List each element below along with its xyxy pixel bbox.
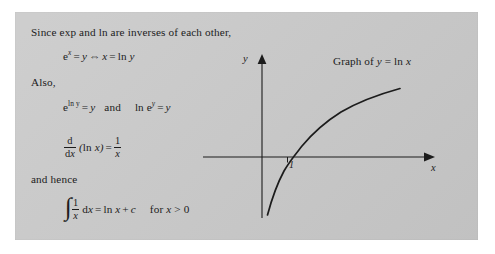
- and-hence-label: and hence: [31, 173, 77, 185]
- eq2-conjunction: and: [104, 101, 121, 113]
- graph-caption: Graph of y = ln x: [333, 55, 411, 67]
- eq2-right-rhs: y: [166, 101, 171, 113]
- derivative-operator-fraction: d dx: [64, 136, 76, 161]
- integral-plus: +: [120, 203, 130, 215]
- y-axis-arrowhead: [258, 54, 267, 64]
- graph-caption-lhs: y: [377, 55, 382, 67]
- one-over-x-numerator: 1: [114, 136, 121, 147]
- derivative-numerator: d: [64, 136, 76, 147]
- integral-sign: ∫: [65, 193, 72, 220]
- graph-caption-equals: =: [385, 55, 391, 67]
- integral-equals: =: [93, 203, 103, 215]
- eq1-equals-2: =: [107, 50, 117, 62]
- eq2-right-ln: ln: [135, 101, 144, 113]
- integrand-denominator: x: [72, 211, 79, 222]
- one-over-x-denominator: x: [114, 149, 121, 160]
- eq1-ln-argument: y: [130, 50, 135, 62]
- equation-inverse-identities: eln y=yandln ey=y: [63, 101, 171, 113]
- eq2-right-equals: =: [155, 101, 165, 113]
- graph-caption-fn: ln: [394, 55, 403, 67]
- derivative-operand: (ln x): [79, 141, 104, 153]
- derivative-denominator: dx: [64, 149, 76, 160]
- one-over-x-fraction: 1 x: [114, 136, 121, 161]
- y-axis-label: y: [243, 53, 248, 64]
- eq2-left-equals: =: [80, 101, 90, 113]
- intro-sentence: Since exp and ln are inverses of each ot…: [31, 26, 231, 38]
- eq1-ln: ln: [118, 50, 127, 62]
- equation-derivative-of-ln: d dx (ln x)= 1 x: [64, 136, 121, 161]
- equation-integral-of-one-over-x: ∫ 1 x dx=ln x+cfor x > 0: [65, 198, 190, 223]
- x-intercept-tick-label: 1: [289, 159, 294, 170]
- equation-exp-ln-equivalence: ex=y⇔x=ln y: [63, 50, 135, 62]
- integrand-fraction: 1 x: [72, 198, 79, 223]
- x-axis-label: x: [431, 162, 436, 173]
- graph-caption-arg: x: [406, 55, 411, 67]
- integration-constant: c: [131, 203, 136, 215]
- derivative-equals: =: [104, 141, 114, 153]
- eq1-equals-1: =: [71, 50, 81, 62]
- x-axis-arrowhead: [424, 153, 435, 162]
- differential: dx: [82, 203, 93, 215]
- eq2-left-rhs: y: [90, 101, 95, 113]
- figure-screenshot: Since exp and ln are inverses of each ot…: [0, 0, 495, 254]
- integral-domain-condition: for x > 0: [150, 203, 190, 215]
- eq2-left-exponent: ln y: [68, 99, 80, 108]
- integral-ln: ln: [103, 203, 112, 215]
- ln-curve: [268, 89, 401, 216]
- text-column: Since exp and ln are inverses of each ot…: [31, 20, 256, 232]
- eq1-iff-symbol: ⇔: [87, 50, 102, 62]
- graph-caption-prefix: Graph of: [333, 55, 374, 67]
- also-label: Also,: [31, 76, 56, 88]
- integrand-numerator: 1: [72, 198, 79, 209]
- derivative-ln: ln: [83, 141, 92, 153]
- summary-panel: Since exp and ln are inverses of each ot…: [15, 12, 478, 240]
